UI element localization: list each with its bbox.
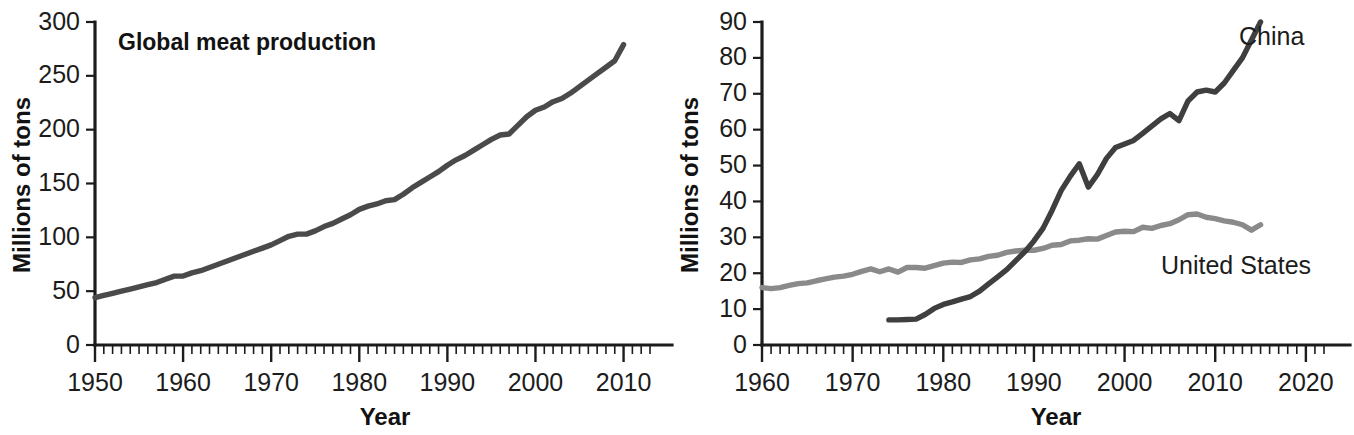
x-tick-label: 1950 bbox=[67, 368, 123, 396]
y-tick-label: 60 bbox=[719, 114, 747, 142]
y-tick-label: 0 bbox=[733, 330, 747, 358]
chart-panel-global: 050100150200250300 195019601970198019902… bbox=[0, 0, 680, 435]
y-tick-label: 100 bbox=[38, 222, 80, 250]
x-tick-label: 1970 bbox=[243, 368, 299, 396]
y-tick-label: 80 bbox=[719, 42, 747, 70]
x-tick-label: 2010 bbox=[1187, 368, 1243, 396]
y-tick-label: 40 bbox=[719, 186, 747, 214]
right-x-axis-title: Year bbox=[1031, 403, 1082, 430]
left-plot-area: 050100150200250300 195019601970198019902… bbox=[38, 7, 672, 396]
x-tick-label: 2020 bbox=[1278, 368, 1334, 396]
left-x-tick-labels: 1950196019701980199020002010 bbox=[67, 368, 651, 396]
right-x-tick-labels: 1960197019801990200020102020 bbox=[734, 368, 1333, 396]
x-tick-label: 2000 bbox=[1097, 368, 1153, 396]
x-tick-label: 2000 bbox=[508, 368, 564, 396]
left-y-axis-title: Millions of tons bbox=[8, 97, 35, 273]
left-x-axis-title: Year bbox=[360, 403, 411, 430]
y-tick-label: 70 bbox=[719, 78, 747, 106]
y-tick-label: 150 bbox=[38, 168, 80, 196]
y-tick-label: 200 bbox=[38, 114, 80, 142]
global-meat-production-line bbox=[95, 45, 624, 298]
x-tick-label: 1990 bbox=[420, 368, 476, 396]
y-tick-label: 300 bbox=[38, 7, 80, 35]
right-y-axis-title: Millions of tons bbox=[676, 97, 703, 273]
y-tick-label: 50 bbox=[719, 150, 747, 178]
y-tick-label: 20 bbox=[719, 258, 747, 286]
y-tick-label: 50 bbox=[52, 276, 80, 304]
right-y-tick-labels: 0102030405060708090 bbox=[719, 7, 747, 358]
china-series-label: China bbox=[1239, 22, 1304, 50]
y-tick-label: 250 bbox=[38, 60, 80, 88]
y-tick-label: 30 bbox=[719, 222, 747, 250]
united-states-series-label: United States bbox=[1161, 251, 1311, 279]
y-tick-label: 90 bbox=[719, 7, 747, 35]
y-tick-label: 0 bbox=[66, 330, 80, 358]
right-plot-area: 0102030405060708090 19601970198019902000… bbox=[719, 7, 1350, 396]
china-us-meat-production-chart: 0102030405060708090 19601970198019902000… bbox=[674, 0, 1354, 435]
y-tick-label: 10 bbox=[719, 294, 747, 322]
x-tick-label: 1960 bbox=[155, 368, 211, 396]
left-y-tick-labels: 050100150200250300 bbox=[38, 7, 80, 358]
meat-production-figure: 050100150200250300 195019601970198019902… bbox=[0, 0, 1354, 435]
x-tick-label: 1980 bbox=[331, 368, 387, 396]
chart-panel-countries: 0102030405060708090 19601970198019902000… bbox=[674, 0, 1354, 435]
left-panel-title: Global meat production bbox=[118, 29, 376, 55]
x-tick-label: 1980 bbox=[915, 368, 971, 396]
x-tick-label: 1970 bbox=[825, 368, 881, 396]
x-tick-label: 1960 bbox=[734, 368, 790, 396]
x-tick-label: 1990 bbox=[1006, 368, 1062, 396]
global-meat-production-chart: 050100150200250300 195019601970198019902… bbox=[0, 0, 680, 435]
x-tick-label: 2010 bbox=[596, 368, 652, 396]
